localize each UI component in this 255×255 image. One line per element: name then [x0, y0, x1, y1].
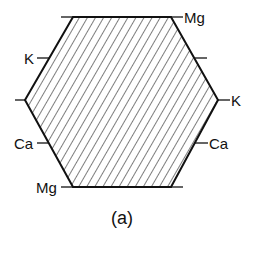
- label-k-right: K: [231, 92, 241, 109]
- label-mg-bottom-left: Mg: [36, 179, 57, 196]
- figure-caption: (a): [111, 208, 133, 228]
- label-ca-lower-right: Ca: [209, 135, 229, 152]
- label-ca-lower-left: Ca: [14, 135, 34, 152]
- hexagon-diagram: Mg K K Ca Ca Mg (a): [0, 0, 255, 255]
- label-mg-top-right: Mg: [184, 9, 205, 26]
- label-k-upper-left: K: [24, 50, 34, 67]
